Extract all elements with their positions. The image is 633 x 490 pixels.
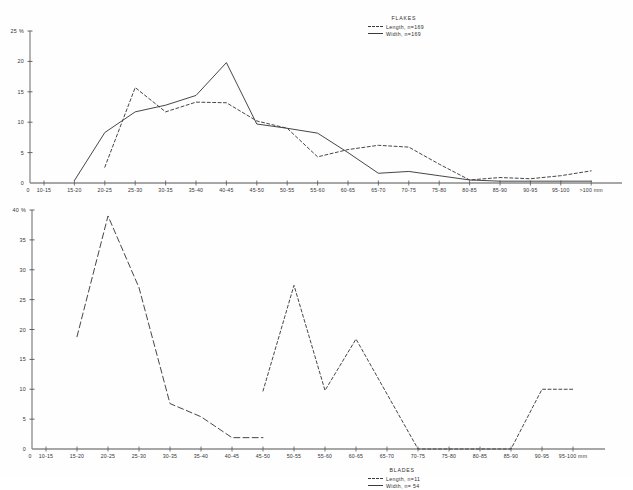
flakes-legend-title: FLAKES: [384, 14, 424, 22]
y-axis-tick-label: 5: [23, 416, 26, 422]
y-axis-tick-label: 10: [17, 119, 24, 125]
x-axis-tick-label: 70-75: [411, 453, 426, 459]
x-axis-tick-label: 40-45: [219, 187, 234, 193]
y-axis-tick-label: 20: [19, 327, 26, 333]
x-axis-origin-label: 0: [29, 453, 32, 459]
x-axis-tick-label: 60-65: [341, 187, 356, 193]
blades-legend-label-width: Width, n= 54: [386, 482, 419, 490]
x-axis-tick-label: 90-95: [523, 187, 538, 193]
dashed-line-key-icon: [368, 478, 383, 480]
flakes-legend-entry-width: Width, n=169: [368, 31, 424, 38]
x-axis-tick-label: 45-50: [256, 453, 271, 459]
y-axis-tick-label: 15: [19, 356, 26, 362]
x-axis-tick-label: 35-40: [194, 453, 209, 459]
x-axis-tick-label: 65-70: [380, 453, 395, 459]
x-axis-tick-label: 60-65: [349, 453, 364, 459]
x-axis-tick-label: 50-55: [287, 453, 302, 459]
x-axis-tick-label: 25-30: [128, 187, 143, 193]
y-axis-tick-label: 5: [21, 150, 24, 156]
solid-line-key-icon: [368, 33, 383, 35]
x-axis-tick-label: 15-20: [70, 453, 85, 459]
x-axis-tick-label: 95-100 mm: [559, 453, 588, 459]
x-axis-tick-label: 80-85: [473, 453, 488, 459]
x-axis-tick-label: 10-15: [37, 187, 52, 193]
y-axis-tick-label: 15: [17, 89, 24, 95]
x-axis-tick-label: 90-95: [535, 453, 550, 459]
dashed-line-key-icon: [368, 26, 383, 28]
x-axis-tick-label: 95-100: [552, 187, 570, 193]
x-axis-tick-label: 70-75: [402, 187, 417, 193]
x-axis-tick-label: 30-35: [163, 453, 178, 459]
x-axis-tick-label: 85-90: [493, 187, 508, 193]
y-axis-tick-label: 30: [19, 267, 26, 273]
chart-panel-blades: 0510152025303540 %010-1515-2020-2525-303…: [0, 200, 633, 476]
y-axis-tick-label: 35: [19, 237, 26, 243]
y-axis-tick-label: 20: [17, 58, 24, 64]
x-axis-tick-label: 65-70: [371, 187, 386, 193]
x-axis-tick-label: 40-45: [225, 453, 240, 459]
y-axis-tick-label: 40 %: [13, 207, 27, 213]
x-axis-tick-label: 10-15: [39, 453, 54, 459]
chart-panel-flakes: 0510152025 %010-1515-2020-2525-3030-3535…: [0, 0, 633, 200]
y-axis-tick-label: 0: [23, 446, 26, 452]
x-axis-tick-label: >100 mm: [579, 187, 603, 193]
x-axis-tick-label: 20-25: [101, 453, 116, 459]
series-line-length: [263, 285, 573, 449]
blades-legend-title: BLADES: [384, 466, 420, 474]
x-axis-tick-label: 80-85: [462, 187, 477, 193]
y-axis-tick-label: 0: [21, 180, 24, 186]
flakes-legend: FLAKES Length, n=169 Width, n=169: [368, 14, 424, 38]
series-line-width: [77, 216, 263, 438]
x-axis-tick-label: 75-80: [432, 187, 447, 193]
blades-legend: BLADES Length, n=11 Width, n= 54: [368, 466, 420, 490]
x-axis-tick-label: 55-60: [318, 453, 333, 459]
flakes-legend-label-width: Width, n=169: [386, 30, 421, 38]
x-axis-origin-label: 0: [27, 187, 30, 193]
y-axis-tick-label: 25 %: [11, 28, 25, 34]
x-axis-tick-label: 25-30: [132, 453, 147, 459]
flakes-plot: 0510152025 %010-1515-2020-2525-3030-3535…: [0, 0, 633, 200]
series-line-width: [74, 63, 591, 182]
x-axis-tick-label: 30-35: [158, 187, 173, 193]
x-axis-tick-label: 20-25: [98, 187, 113, 193]
blades-plot: 0510152025303540 %010-1515-2020-2525-303…: [0, 200, 633, 476]
blades-legend-entry-width: Width, n= 54: [368, 483, 420, 490]
x-axis-tick-label: 50-55: [280, 187, 295, 193]
x-axis-tick-label: 15-20: [67, 187, 82, 193]
x-axis-tick-label: 55-60: [310, 187, 325, 193]
y-axis-tick-label: 10: [19, 386, 26, 392]
x-axis-tick-label: 75-80: [442, 453, 457, 459]
x-axis-tick-label: 45-50: [250, 187, 265, 193]
x-axis-tick-label: 35-40: [189, 187, 204, 193]
x-axis-tick-label: 85-90: [504, 453, 519, 459]
solid-line-key-icon: [368, 485, 383, 487]
y-axis-tick-label: 25: [19, 297, 26, 303]
